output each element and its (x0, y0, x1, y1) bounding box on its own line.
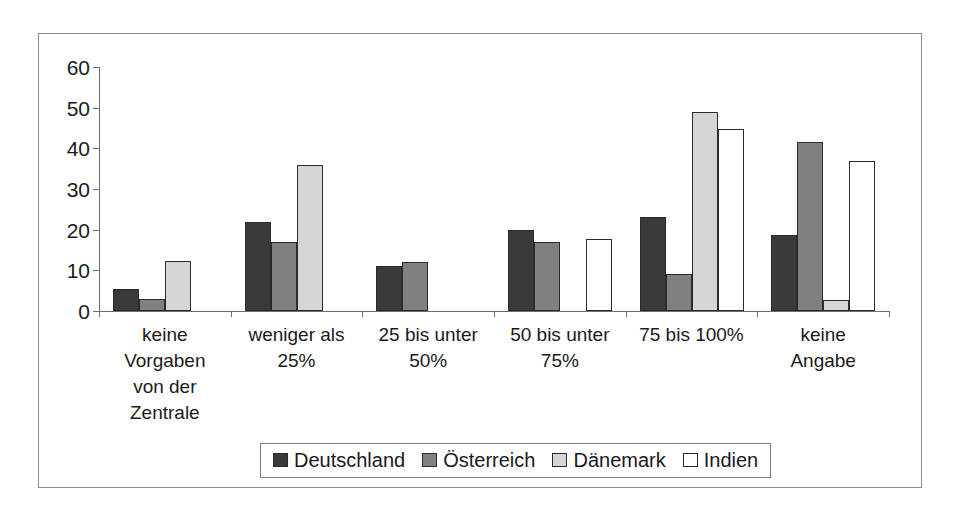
legend-item-label: Indien (704, 450, 759, 470)
legend-item-label: Dänemark (573, 450, 665, 470)
y-axis-tick-mark (93, 189, 99, 190)
y-axis-tick-mark (93, 148, 99, 149)
y-axis-tick-label: 0 (78, 301, 90, 322)
legend-swatch-icon (552, 453, 567, 467)
bar-group (640, 67, 744, 311)
category-label-line: 25% (231, 348, 363, 374)
chart-legend: DeutschlandÖsterreichDänemarkIndien (260, 443, 771, 478)
legend-swatch-icon (683, 453, 698, 467)
legend-swatch-icon (273, 453, 288, 467)
y-axis-tick-mark (93, 230, 99, 231)
bar (165, 261, 191, 311)
x-axis-tick-mark (99, 311, 100, 317)
x-axis-category-label: 75 bis 100% (626, 322, 758, 348)
bar (666, 274, 692, 311)
y-axis-tick-mark (93, 67, 99, 68)
y-axis-line (99, 67, 100, 311)
category-label-line: keine (99, 322, 231, 348)
bar (797, 142, 823, 311)
bar (139, 299, 165, 311)
y-axis-tick-label: 30 (67, 179, 90, 200)
y-axis-tick-mark (93, 270, 99, 271)
category-label-line: weniger als (231, 322, 363, 348)
category-label-line: 75% (494, 348, 626, 374)
category-label-line: keine (757, 322, 889, 348)
x-axis-category-label: weniger als25% (231, 322, 363, 374)
bar (376, 266, 402, 311)
bar (113, 289, 139, 311)
bar (823, 300, 849, 311)
category-label-line: von der (99, 374, 231, 400)
category-label-line: Vorgaben (99, 348, 231, 374)
x-axis-tick-mark (494, 311, 495, 317)
legend-item: Indien (683, 450, 759, 470)
category-label-line: Zentrale (99, 400, 231, 426)
bar (402, 262, 428, 311)
bar (771, 235, 797, 311)
bar (297, 165, 323, 311)
x-axis-category-labels: keineVorgabenvon derZentraleweniger als2… (99, 322, 889, 427)
bar (640, 217, 666, 311)
y-axis-tick-label: 50 (67, 97, 90, 118)
x-axis-tick-mark (626, 311, 627, 317)
bar (849, 161, 875, 311)
x-axis-tick-mark (231, 311, 232, 317)
legend-item-label: Deutschland (294, 450, 405, 470)
category-label-line: 50% (362, 348, 494, 374)
x-axis-category-label: 50 bis unter75% (494, 322, 626, 374)
bar (586, 239, 612, 311)
bar-group (771, 67, 875, 311)
category-label-line: Angabe (757, 348, 889, 374)
legend-item: Dänemark (552, 450, 665, 470)
category-label-line: 25 bis unter (362, 322, 494, 348)
y-axis-tick-label: 40 (67, 138, 90, 159)
chart-frame: 0102030405060 keineVorgabenvon derZentra… (38, 33, 922, 488)
y-axis-tick-label: 10 (67, 260, 90, 281)
x-axis-tick-mark (362, 311, 363, 317)
x-axis-category-label: keineVorgabenvon derZentrale (99, 322, 231, 426)
x-axis-tick-mark (889, 311, 890, 317)
x-axis-category-label: keineAngabe (757, 322, 889, 374)
plot-area: 0102030405060 (99, 67, 889, 311)
bar (245, 222, 271, 311)
bar (271, 242, 297, 311)
bar-group (245, 67, 349, 311)
bar (534, 242, 560, 311)
x-axis-category-label: 25 bis unter50% (362, 322, 494, 374)
bar-group (113, 67, 217, 311)
category-label-line: 75 bis 100% (626, 322, 758, 348)
y-axis-tick-label: 20 (67, 219, 90, 240)
legend-item: Österreich (422, 450, 535, 470)
bar (508, 230, 534, 311)
legend-item: Deutschland (273, 450, 405, 470)
y-axis-tick-label: 60 (67, 57, 90, 78)
x-axis-tick-mark (757, 311, 758, 317)
legend-swatch-icon (422, 453, 437, 467)
bar (692, 112, 718, 311)
category-label-line: 50 bis unter (494, 322, 626, 348)
bar (718, 129, 744, 311)
bar-group (508, 67, 612, 311)
legend-item-label: Österreich (443, 450, 535, 470)
y-axis-tick-mark (93, 108, 99, 109)
bar-group (376, 67, 480, 311)
